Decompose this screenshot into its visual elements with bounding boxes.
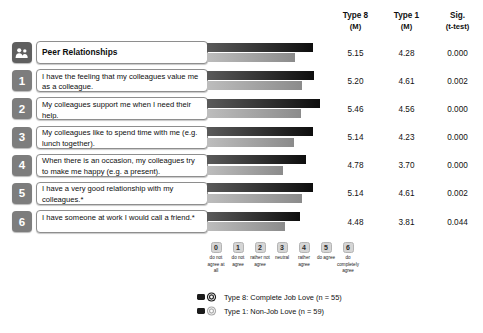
item-values: 5.14 4.61 0.002 — [330, 181, 483, 207]
item-label: I have someone at work I would call a fr… — [42, 213, 195, 222]
item-label-card: I have the feeling that my colleagues va… — [36, 69, 208, 92]
scale-label: rather not agree — [249, 255, 271, 268]
item-bars — [207, 210, 335, 233]
column-header-type8-title: Type 8 — [330, 11, 381, 22]
item-bars — [207, 126, 335, 149]
series-legend: Type 8: Complete Job Love (n = 55) Type … — [197, 290, 427, 318]
item-bars — [207, 154, 335, 177]
value-type8: 5.15 — [330, 49, 381, 58]
item-row: 4 When there is an occasion, my colleagu… — [0, 153, 483, 179]
value-sig: 0.000 — [432, 133, 483, 142]
legend-entry-type8: Type 8: Complete Job Love (n = 55) — [197, 290, 427, 304]
scale-point: 3 neutral — [271, 242, 293, 276]
scale-point: 6 do completely agree — [337, 242, 359, 276]
item-bars — [207, 69, 335, 92]
chart-sheet: Type 8 (M) Type 1 (M) Sig. (t-test) — [0, 0, 483, 333]
scale-point: 0 do not agree at all — [205, 242, 227, 276]
item-number-badge: 5 — [12, 183, 32, 204]
scale-label: do not agree at all — [205, 255, 227, 275]
dimension-label-card: Peer Relationships — [36, 41, 208, 64]
value-type8: 5.46 — [330, 105, 381, 114]
bar-type8 — [207, 99, 320, 108]
column-header-type8-sub: (M) — [330, 22, 381, 32]
value-type1: 4.23 — [381, 133, 432, 142]
bar-type8 — [207, 155, 306, 164]
item-label: My colleagues support me when I need the… — [42, 100, 191, 120]
column-header-sig-sub: (t-test) — [432, 22, 483, 32]
item-label-card: My colleagues like to spend time with me… — [36, 126, 208, 149]
item-label: My colleagues like to spend time with me… — [42, 128, 197, 148]
column-header-sig: Sig. (t-test) — [432, 11, 483, 37]
item-values: 5.14 4.23 0.000 — [330, 125, 483, 151]
value-type8: 4.48 — [330, 218, 381, 227]
value-sig: 0.000 — [432, 49, 483, 58]
item-label: I have a very good relationship with my … — [42, 184, 173, 204]
item-row: 3 My colleagues like to spend time with … — [0, 125, 483, 151]
legend-swatch-type1 — [197, 306, 221, 316]
value-type8: 4.78 — [330, 161, 381, 170]
dimension-label: Peer Relationships — [42, 47, 117, 59]
item-number-badge: 3 — [12, 127, 32, 148]
value-sig: 0.002 — [432, 77, 483, 86]
column-header-type1-title: Type 1 — [381, 11, 432, 22]
value-sig: 0.044 — [432, 218, 483, 227]
bar-type8 — [207, 71, 314, 80]
scale-label: rather agree — [293, 255, 315, 268]
column-header-type8: Type 8 (M) — [330, 11, 381, 37]
scale-value: 5 — [321, 242, 332, 253]
dimension-values: 5.15 4.28 0.000 — [330, 40, 483, 66]
item-values: 5.20 4.61 0.002 — [330, 68, 483, 94]
value-type1: 4.61 — [381, 77, 432, 86]
value-type1: 4.56 — [381, 105, 432, 114]
legend-swatch-type8 — [197, 292, 221, 302]
value-sig: 0.000 — [432, 161, 483, 170]
value-type1: 4.61 — [381, 189, 432, 198]
item-row: 6 I have someone at work I would call a … — [0, 209, 483, 235]
item-row: 1 I have the feeling that my colleagues … — [0, 68, 483, 94]
value-type1: 3.70 — [381, 161, 432, 170]
item-number-badge: 4 — [12, 155, 32, 176]
item-label-card: My colleagues support me when I need the… — [36, 97, 208, 120]
item-values: 4.78 3.70 0.000 — [330, 153, 483, 179]
value-type1: 4.28 — [381, 49, 432, 58]
value-type8: 5.20 — [330, 77, 381, 86]
value-type1: 3.81 — [381, 218, 432, 227]
scale-label: neutral — [271, 255, 293, 262]
item-bars — [207, 97, 335, 120]
item-number-badge: 2 — [12, 98, 32, 119]
scale-value: 6 — [343, 242, 354, 253]
value-type8: 5.14 — [330, 189, 381, 198]
item-number-badge: 6 — [12, 211, 32, 232]
item-label-card: When there is an occasion, my colleagues… — [36, 154, 208, 177]
bar-type1 — [207, 53, 295, 62]
bar-type1 — [207, 138, 294, 147]
item-row: 5 I have a very good relationship with m… — [0, 181, 483, 207]
item-label: When there is an occasion, my colleagues… — [42, 156, 195, 176]
column-headers: Type 8 (M) Type 1 (M) Sig. (t-test) — [330, 11, 483, 37]
item-values: 5.46 4.56 0.000 — [330, 96, 483, 122]
scale-label: do agree — [315, 255, 337, 262]
scale-label: do not agree — [227, 255, 249, 268]
value-sig: 0.000 — [432, 105, 483, 114]
scale-value: 1 — [233, 242, 244, 253]
bar-type8 — [207, 127, 313, 136]
response-scale: 0 do not agree at all 1 do not agree 2 r… — [205, 242, 353, 276]
bar-type8 — [207, 212, 300, 221]
scale-value: 3 — [277, 242, 288, 253]
bar-type8 — [207, 183, 313, 192]
bar-type1 — [207, 166, 283, 175]
legend-label-type1: Type 1: Non-Job Love (n = 59) — [224, 307, 324, 316]
value-type8: 5.14 — [330, 133, 381, 142]
scale-value: 4 — [299, 242, 310, 253]
item-label-card: I have a very good relationship with my … — [36, 182, 208, 205]
scale-label: do completely agree — [337, 255, 359, 275]
scale-point: 2 rather not agree — [249, 242, 271, 276]
bar-type8 — [207, 43, 313, 52]
column-header-type1: Type 1 (M) — [381, 11, 432, 37]
scale-point: 1 do not agree — [227, 242, 249, 276]
column-header-type1-sub: (M) — [381, 22, 432, 32]
column-header-sig-title: Sig. — [432, 11, 483, 22]
item-label-card: I have someone at work I would call a fr… — [36, 210, 208, 233]
bar-type1 — [207, 222, 285, 231]
dimension-bars — [207, 41, 335, 64]
